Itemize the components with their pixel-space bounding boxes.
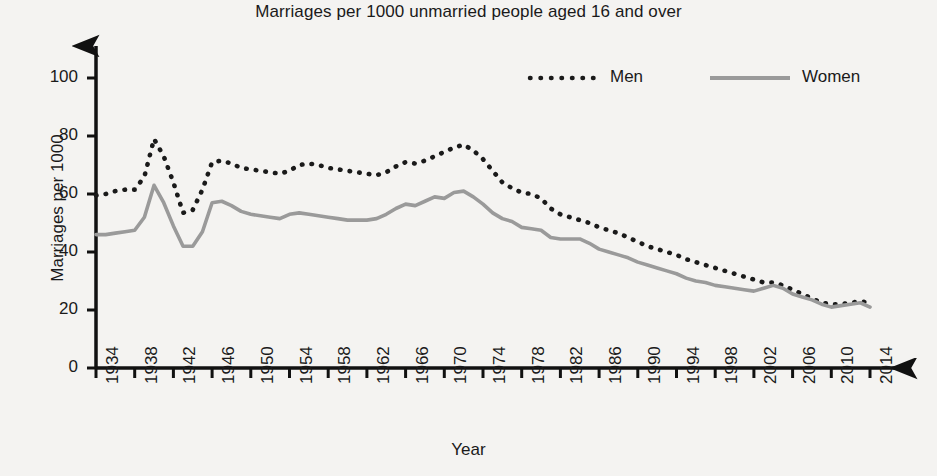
x-tick-label: 2014 — [877, 346, 897, 384]
x-tick-label: 1954 — [297, 346, 317, 384]
y-tick-label: 0 — [38, 357, 78, 377]
x-tick-label: 1946 — [219, 346, 239, 384]
y-tick-label: 60 — [38, 183, 78, 203]
x-tick-label: 2010 — [838, 346, 858, 384]
chart-series-layer — [96, 139, 870, 307]
x-tick-label: 1958 — [335, 346, 355, 384]
x-tick-label: 1942 — [180, 346, 200, 384]
x-tick-label: 1998 — [722, 346, 742, 384]
x-tick-label: 1962 — [374, 346, 394, 384]
x-tick-label: 2006 — [800, 346, 820, 384]
y-tick-label: 40 — [38, 241, 78, 261]
x-tick-label: 1934 — [103, 346, 123, 384]
x-tick-label: 1990 — [645, 346, 665, 384]
x-tick-label: 1974 — [490, 346, 510, 384]
y-tick-label: 100 — [38, 67, 78, 87]
series-line-women — [96, 185, 870, 307]
x-tick-label: 1978 — [529, 346, 549, 384]
chart-axes — [96, 46, 900, 368]
chart-page: Marriages per 1000 unmarried people aged… — [0, 0, 937, 476]
y-tick-label: 80 — [38, 125, 78, 145]
x-tick-label: 2002 — [761, 346, 781, 384]
legend-label-women: Women — [802, 67, 860, 87]
legend-label-men: Men — [610, 67, 643, 87]
x-tick-label: 1950 — [258, 346, 278, 384]
x-axis-ticks — [96, 368, 870, 378]
x-tick-label: 1966 — [413, 346, 433, 384]
x-tick-label: 1982 — [567, 346, 587, 384]
x-tick-label: 1970 — [451, 346, 471, 384]
y-tick-label: 20 — [38, 299, 78, 319]
x-tick-label: 1938 — [142, 346, 162, 384]
x-tick-label: 1994 — [684, 346, 704, 384]
chart-plot-area — [0, 0, 937, 476]
x-tick-label: 1986 — [606, 346, 626, 384]
x-axis-title: Year — [0, 440, 937, 460]
series-line-men — [96, 139, 870, 304]
